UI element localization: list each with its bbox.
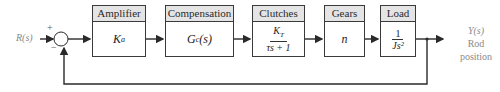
block-transfer-function: KTτs + 1 (253, 22, 304, 56)
block-transfer-function: Ka (93, 22, 145, 56)
amplifier-block: Amplifier Ka (92, 5, 146, 57)
block-transfer-function: 1Js² (381, 22, 415, 56)
plus-sign: + (47, 22, 53, 33)
gears-block: Gears n (324, 5, 365, 57)
minus-sign: − (51, 42, 57, 53)
load-block: Load 1Js² (380, 5, 416, 57)
block-header: Compensation (166, 6, 233, 22)
clutches-block: Clutches KTτs + 1 (252, 5, 305, 57)
block-header: Clutches (253, 6, 304, 22)
block-header: Gears (325, 6, 364, 22)
block-header: Amplifier (93, 6, 145, 22)
block-transfer-function: n (325, 22, 364, 56)
output-label: Y(s) Rod position (456, 24, 496, 63)
block-header: Load (381, 6, 415, 22)
block-transfer-function: Gc(s) (166, 22, 233, 56)
input-label: R(s) (16, 32, 33, 43)
compensation-block: Compensation Gc(s) (165, 5, 234, 57)
connection-lines (0, 0, 500, 92)
